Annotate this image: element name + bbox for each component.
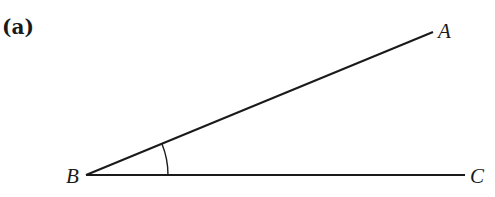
point-label-a: A [436,19,451,43]
point-label-c: C [470,164,485,188]
angle-diagram: (a) A B C [0,0,495,197]
angle-arc-b [162,144,168,175]
point-label-b: B [66,164,79,188]
segment-ba [86,32,433,175]
part-label: (a) [2,15,34,39]
